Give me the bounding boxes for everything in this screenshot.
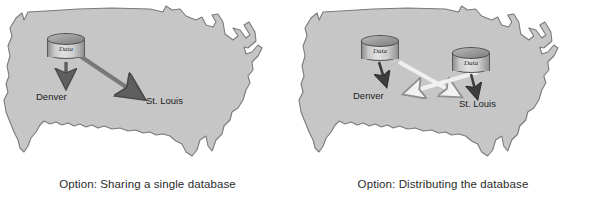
us-map-svg-left xyxy=(0,0,295,172)
us-map-outline-path xyxy=(4,6,262,156)
us-map-left xyxy=(0,0,295,172)
panel-caption-left: Option: Sharing a single database xyxy=(0,178,295,190)
panel-caption-right: Option: Distributing the database xyxy=(295,178,591,190)
us-map-right xyxy=(295,0,591,172)
us-map-svg-right xyxy=(295,0,591,172)
us-map-outline-path xyxy=(299,6,558,156)
database-options-figure: Data Denver St. Louis Option: Sharing a … xyxy=(0,0,591,214)
panel-sharing-single-database: Data Denver St. Louis Option: Sharing a … xyxy=(0,0,295,214)
panel-distributing-the-database: Data Data Denver St. Louis Option: Distr… xyxy=(295,0,591,214)
